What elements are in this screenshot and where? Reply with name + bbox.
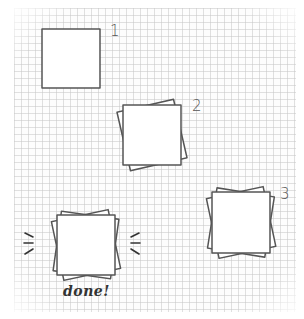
step-2-label: 2 [192,97,202,115]
done-label: done! [63,283,110,299]
step-1-square [42,29,100,88]
step-3-label: 3 [280,185,290,203]
stacking-squares-diagram [0,0,304,319]
done-stack [51,210,120,281]
step-2-stack [117,99,187,171]
step-1-label: 1 [110,22,120,40]
step-3-stack [206,187,275,259]
